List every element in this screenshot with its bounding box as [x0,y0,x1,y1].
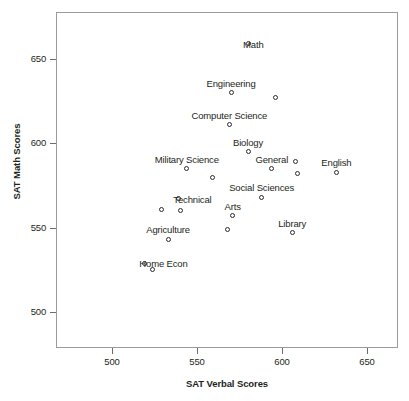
data-point [166,237,171,242]
data-point [290,230,295,235]
y-tick-label: 600 [6,137,46,148]
data-point-label: Biology [233,138,263,148]
data-point-label: Computer Science [191,111,267,121]
scatter-plot-figure: SAT Math Scores SAT Verbal Scores 500550… [0,0,409,401]
y-tick-mark [50,312,56,313]
x-axis-title: SAT Verbal Scores [56,378,398,389]
data-point-label: Library [278,219,306,229]
data-point [273,95,278,100]
y-tick-label: 500 [6,306,46,317]
data-point [295,171,300,176]
x-tick-mark [197,348,198,354]
data-point [159,207,164,212]
x-tick-label: 650 [347,356,387,367]
data-point [259,195,264,200]
data-point [334,170,339,175]
x-tick-label: 600 [262,356,302,367]
x-tick-mark [282,348,283,354]
data-point-label: Engineering [206,79,255,89]
data-point-label: Agriculture [146,225,190,235]
data-point [246,149,251,154]
x-tick-label: 500 [92,356,132,367]
y-tick-mark [50,59,56,60]
data-point-label: English [321,158,351,168]
data-point [225,227,230,232]
plot-area [56,12,398,348]
data-point [210,175,215,180]
y-tick-mark [50,143,56,144]
y-tick-label: 650 [6,53,46,64]
x-tick-mark [367,348,368,354]
data-point-label: Arts [225,202,241,212]
data-point-label: General [255,155,288,165]
x-tick-mark [112,348,113,354]
data-point-label: Social Sciences [229,183,294,193]
x-tick-label: 550 [177,356,217,367]
y-tick-label: 550 [6,222,46,233]
y-axis-title: SAT Math Scores [11,82,22,242]
y-tick-mark [50,228,56,229]
data-point [229,90,234,95]
data-point [178,208,183,213]
data-point-label: Military Science [155,155,219,165]
